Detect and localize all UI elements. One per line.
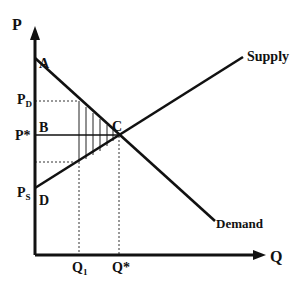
demand-curve (35, 58, 215, 221)
supply-curve (35, 57, 243, 188)
y-axis-label: P (12, 16, 22, 33)
point-d-label: D (39, 193, 49, 208)
point-c-label: C (112, 119, 122, 134)
ps-label: PS (17, 185, 31, 202)
pd-label: PD (17, 92, 33, 109)
y-axis-arrow-icon (30, 26, 40, 40)
supply-label: Supply (247, 49, 289, 64)
demand-label: Demand (216, 216, 264, 231)
point-a-label: A (39, 56, 50, 71)
hatched-area (79, 101, 113, 162)
qstar-label: Q* (112, 260, 130, 275)
pstar-label: P* (15, 128, 31, 143)
point-b-label: B (39, 120, 48, 135)
x-axis-label: Q (270, 248, 282, 265)
q1-label: Q1 (72, 260, 88, 277)
supply-demand-diagram: P Q A B C D PD P* PS Q1 Q* Supply Demand (0, 0, 301, 292)
x-axis-arrow-icon (253, 250, 266, 260)
